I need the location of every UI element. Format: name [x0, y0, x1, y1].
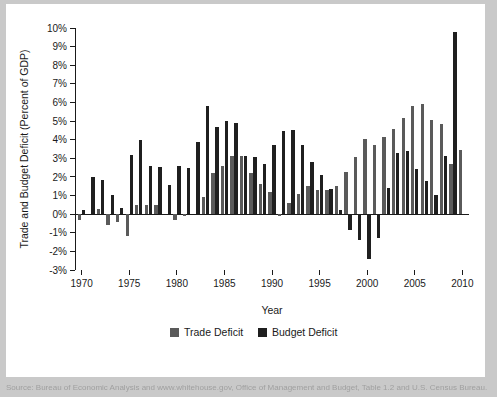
- bar-trade-1991: [278, 214, 281, 216]
- y-axis-tick-label: 7%: [53, 78, 68, 89]
- bar-budget-2006: [425, 181, 428, 214]
- legend-label-trade-deficit: Trade Deficit: [184, 326, 243, 338]
- bar-budget-1974: [120, 208, 123, 215]
- bar-trade-2003: [392, 129, 395, 214]
- y-axis-tick-label: 8%: [53, 60, 68, 71]
- bar-budget-1995: [320, 175, 323, 214]
- source-note: Source: Bureau of Economic Analysis and …: [6, 383, 476, 393]
- bar-budget-1982: [196, 142, 199, 214]
- bar-trade-1999: [354, 157, 357, 214]
- bar-trade-1977: [145, 205, 148, 214]
- x-axis-tick-label: 1980: [166, 278, 189, 289]
- chart-plate: -3%-2%-1%0%1%2%3%4%5%6%7%8%9%10%19701975…: [6, 4, 485, 377]
- bar-trade-1980: [173, 214, 176, 220]
- bar-trade-1974: [116, 214, 119, 221]
- bar-budget-1994: [310, 162, 313, 214]
- x-axis-tick-label: 2005: [404, 278, 427, 289]
- bar-trade-1988: [249, 173, 252, 214]
- legend-swatch-budget-deficit: [258, 328, 267, 337]
- x-axis-tick-label: 1970: [71, 278, 94, 289]
- bar-trade-2000: [363, 139, 366, 214]
- bar-trade-1986: [230, 156, 233, 214]
- bar-trade-1983: [202, 197, 205, 214]
- bar-trade-1994: [306, 186, 309, 214]
- bar-budget-1981: [187, 168, 190, 214]
- y-axis-tick-label: 5%: [53, 116, 68, 127]
- y-axis-tick-label: -3%: [49, 265, 67, 276]
- series-budget-deficit: [82, 32, 457, 259]
- chart-legend: Trade DeficitBudget Deficit: [170, 326, 337, 338]
- x-axis-tick-label: 2010: [451, 278, 474, 289]
- y-axis-tick-label: 9%: [53, 41, 68, 52]
- x-axis-tick-label: 1995: [308, 278, 331, 289]
- series-trade-deficit: [78, 104, 462, 236]
- bar-trade-2008: [440, 124, 443, 214]
- x-axis-tick-label: 1975: [118, 278, 141, 289]
- bar-trade-1995: [316, 190, 319, 214]
- bar-budget-1999: [358, 214, 361, 240]
- y-axis-title: Trade and Budget Deficit (Percent of GDP…: [18, 49, 30, 248]
- bar-trade-1981: [183, 214, 186, 216]
- bar-trade-2004: [402, 118, 405, 214]
- bar-trade-1997: [335, 186, 338, 214]
- x-axis-tick-label: 1990: [261, 278, 284, 289]
- bar-budget-1990: [272, 145, 275, 214]
- bar-budget-1998: [348, 214, 351, 230]
- bar-trade-1990: [268, 192, 271, 214]
- bar-budget-1980: [177, 166, 180, 214]
- bar-trade-1976: [135, 205, 138, 214]
- bar-trade-1970: [78, 214, 81, 220]
- bar-trade-2007: [430, 120, 433, 214]
- y-axis-tick-label: 2%: [53, 172, 68, 183]
- bar-budget-1975: [130, 155, 133, 215]
- y-axis-tick-label: 1%: [53, 190, 68, 201]
- x-axis-tick-label: 1985: [213, 278, 236, 289]
- y-axis-tick-label: 0%: [53, 209, 68, 220]
- bar-budget-1972: [101, 180, 104, 214]
- y-axis-tick-label: 6%: [53, 97, 68, 108]
- bar-budget-1970: [82, 210, 85, 215]
- legend-label-budget-deficit: Budget Deficit: [272, 326, 337, 338]
- bar-trade-1975: [126, 214, 129, 236]
- bar-trade-2006: [421, 104, 424, 214]
- bar-trade-1973: [106, 214, 109, 225]
- bar-trade-2010: [459, 150, 462, 214]
- bar-trade-1992: [287, 203, 290, 214]
- bar-trade-2005: [411, 106, 414, 214]
- bar-budget-2003: [396, 153, 399, 214]
- bar-budget-1987: [244, 156, 247, 215]
- bar-trade-1978: [154, 205, 157, 214]
- bar-budget-2002: [387, 188, 390, 214]
- bar-budget-1996: [329, 189, 332, 214]
- figure-canvas: -3%-2%-1%0%1%2%3%4%5%6%7%8%9%10%19701975…: [0, 0, 497, 397]
- bar-trade-2009: [449, 164, 452, 214]
- deficit-bar-chart: -3%-2%-1%0%1%2%3%4%5%6%7%8%9%10%19701975…: [6, 4, 485, 377]
- bar-budget-1976: [139, 140, 142, 214]
- y-axis-tick-label: 10%: [47, 23, 67, 34]
- bar-budget-2004: [406, 151, 409, 214]
- bar-budget-1991: [282, 131, 285, 214]
- bar-budget-2009: [453, 32, 456, 214]
- bar-budget-2001: [377, 214, 380, 238]
- bar-budget-1971: [91, 177, 94, 214]
- bar-budget-1984: [215, 127, 218, 214]
- x-axis-tick-label: 2000: [356, 278, 379, 289]
- bar-trade-1989: [259, 184, 262, 214]
- bar-trade-1985: [221, 166, 224, 214]
- bar-trade-1996: [325, 190, 328, 214]
- legend-swatch-trade-deficit: [170, 328, 179, 337]
- bar-budget-1985: [225, 121, 228, 214]
- bar-trade-1984: [211, 173, 214, 214]
- bar-trade-1998: [344, 172, 347, 214]
- bar-trade-2002: [382, 137, 385, 214]
- bar-budget-1993: [301, 145, 304, 214]
- bar-budget-1992: [291, 130, 294, 214]
- bar-budget-1978: [158, 167, 161, 214]
- bar-budget-2005: [415, 169, 418, 214]
- bar-budget-1977: [149, 166, 152, 214]
- bar-trade-2001: [373, 145, 376, 214]
- bar-budget-1983: [206, 106, 209, 215]
- bar-budget-1997: [339, 210, 342, 214]
- source-strip: Source: Bureau of Economic Analysis and …: [0, 381, 497, 397]
- bar-budget-2007: [434, 195, 437, 215]
